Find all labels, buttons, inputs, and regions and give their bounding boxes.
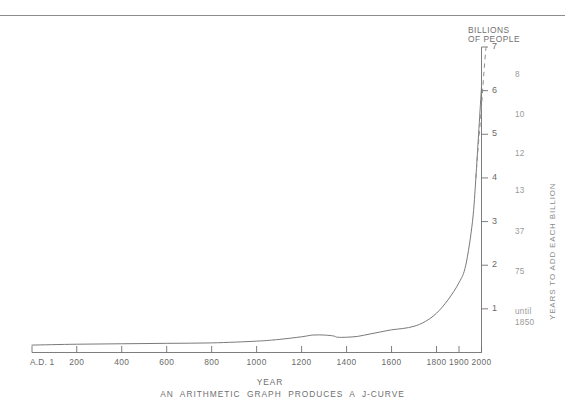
axis-lines bbox=[32, 47, 482, 353]
right-annotation-until1850: until 1850 bbox=[515, 306, 534, 328]
right-annotation-8: 8 bbox=[515, 70, 520, 79]
right-annotation-75: 75 bbox=[515, 267, 525, 276]
y-tick-label-2: 2 bbox=[492, 259, 497, 269]
x-tick-label-800: 800 bbox=[190, 358, 234, 367]
tick-marks bbox=[32, 47, 488, 353]
y-tick-label-7: 7 bbox=[492, 41, 497, 51]
x-tick-label-1600: 1600 bbox=[370, 358, 414, 367]
y-tick-label-1: 1 bbox=[492, 303, 497, 313]
x-tick-label-200: 200 bbox=[55, 358, 99, 367]
x-tick-label-1200: 1200 bbox=[280, 358, 324, 367]
x-tick-label-1400: 1400 bbox=[325, 358, 369, 367]
right-annotation-10: 10 bbox=[515, 110, 525, 119]
y-tick-label-6: 6 bbox=[492, 85, 497, 95]
y-tick-label-4: 4 bbox=[492, 172, 497, 182]
y-tick-label-3: 3 bbox=[492, 216, 497, 226]
population-j-curve-figure: BILLIONS OF PEOPLE YEAR YEARS TO ADD EAC… bbox=[0, 0, 565, 416]
plot-canvas bbox=[0, 0, 565, 416]
right-annotation-12: 12 bbox=[515, 149, 525, 158]
x-tick-label-400: 400 bbox=[100, 358, 144, 367]
right-annotation-13: 13 bbox=[515, 186, 525, 195]
projection-curve-dashed bbox=[476, 47, 486, 178]
population-curve bbox=[32, 86, 482, 345]
x-tick-label-600: 600 bbox=[145, 358, 189, 367]
x-tick-label-2000: 2000 bbox=[460, 358, 504, 367]
x-tick-label-1000: 1000 bbox=[235, 358, 279, 367]
y-tick-label-5: 5 bbox=[492, 128, 497, 138]
right-annotation-37: 37 bbox=[515, 227, 525, 236]
figure-caption: AN ARITHMETIC GRAPH PRODUCES A J-CURVE bbox=[0, 390, 565, 399]
